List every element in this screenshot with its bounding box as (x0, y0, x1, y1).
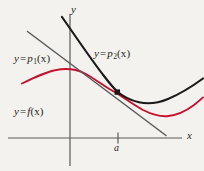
curve-f-of-x (22, 69, 203, 116)
taylor-polynomial-figure: y=p1(x) y=p2(x) y=f(x) x y a (0, 0, 204, 171)
graph-canvas (0, 0, 204, 171)
y-axis-label: y (71, 4, 76, 15)
point-of-tangency (115, 89, 120, 94)
label-f-arg: (x) (30, 105, 43, 117)
x-axis-tick-label-a: a (114, 143, 119, 153)
label-f: y=f(x) (14, 106, 44, 117)
label-p1-arg: (x) (37, 52, 50, 64)
curve-p2-of-x (62, 17, 203, 103)
label-p2-subscript: 2 (113, 52, 117, 61)
label-p2-arg: (x) (117, 47, 130, 59)
label-p1-subscript: 1 (33, 57, 37, 66)
x-axis-label: x (187, 130, 192, 141)
label-p1: y=p1(x) (14, 53, 50, 64)
label-p2: y=p2(x) (94, 48, 130, 59)
